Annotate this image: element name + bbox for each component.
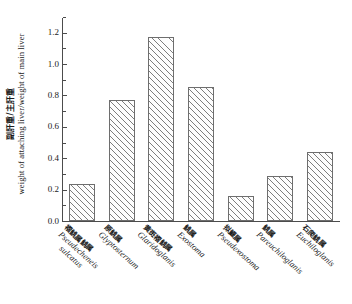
y-tick-minor: [63, 80, 66, 81]
y-tick-mark: [63, 221, 67, 222]
y-tick-mark: [63, 127, 67, 128]
y-tick-3: 0.6: [62, 127, 68, 128]
y-tick-minor: [63, 174, 66, 175]
y-tick-minor: [63, 48, 66, 49]
y-tick-minor: [63, 17, 66, 18]
bar-3: [188, 87, 214, 221]
y-tick-label: 0.6: [48, 121, 59, 131]
y-tick-1: 0.2: [62, 190, 68, 191]
y-tick-label: 0.0: [48, 216, 59, 226]
y-tick-6: 1.2: [62, 33, 68, 34]
y-axis-title: 副肝重/主肝重 weight of attaching liver/weight…: [12, 8, 46, 220]
y-tick-mark: [63, 64, 67, 65]
y-tick-0: 0.0: [62, 221, 68, 222]
bar-2: [148, 37, 174, 221]
bar-4: [228, 196, 254, 221]
y-tick-2: 0.4: [62, 158, 68, 159]
x-tick-label-0: 褶鮡属鮡属Pseudecheneissulcatus: [49, 224, 105, 279]
y-tick-mark: [63, 95, 67, 96]
y-tick-4: 0.8: [62, 95, 68, 96]
y-tick-minor: [63, 111, 66, 112]
y-tick-label: 0.4: [48, 153, 59, 163]
y-tick-mark: [63, 33, 67, 34]
y-tick-label: 0.2: [48, 184, 59, 194]
plot-area: 0.00.20.40.60.81.01.2: [62, 18, 340, 222]
x-axis-line: [62, 221, 340, 222]
y-tick-minor: [63, 143, 66, 144]
y-tick-label: 0.8: [48, 90, 59, 100]
y-axis-title-english: weight of attaching liver/weight of main…: [16, 8, 26, 220]
x-tick-label-1: 原鮡属Glyptosternum: [95, 224, 145, 272]
x-tick-label-2: 黄斑褶鮡属Glaridoglanis: [135, 224, 183, 270]
y-tick-label: 1.2: [48, 27, 59, 37]
y-tick-mark: [63, 158, 67, 159]
bar-0: [69, 184, 95, 221]
bar-6: [307, 152, 333, 221]
x-axis-tick-labels: 褶鮡属鮡属Pseudecheneissulcatus原鮡属Glyptostern…: [62, 224, 352, 304]
y-tick-minor: [63, 205, 66, 206]
y-tick-mark: [63, 190, 67, 191]
y-tick-label: 1.0: [48, 59, 59, 69]
y-axis-title-chinese: 副肝重/主肝重: [4, 8, 15, 220]
y-tick-5: 1.0: [62, 64, 68, 65]
bar-chart-figure: 副肝重/主肝重 weight of attaching liver/weight…: [0, 0, 352, 304]
bar-5: [267, 176, 293, 221]
bar-1: [109, 100, 135, 221]
